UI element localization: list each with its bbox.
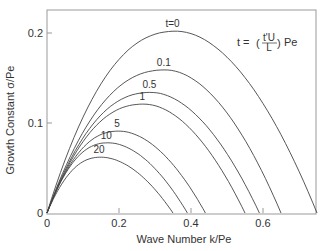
svg-text:0.1: 0.1 [28, 117, 43, 129]
svg-text:Pe: Pe [284, 36, 297, 48]
svg-text:0.6: 0.6 [255, 217, 270, 229]
svg-text:0.4: 0.4 [183, 217, 198, 229]
curve-label-20: 20 [93, 144, 105, 155]
curve-label-0.1: 0.1 [157, 57, 171, 68]
curve-label-t=0: t=0 [166, 18, 181, 29]
curve-label-10: 10 [101, 130, 113, 141]
curve-label-5: 5 [114, 118, 120, 129]
svg-text:t =: t = [237, 36, 250, 48]
svg-text:0.2: 0.2 [111, 217, 126, 229]
curve-labels: t=00.10.5151020 [93, 18, 180, 155]
y-axis-label: Growth Constant σ/Pe [4, 66, 16, 175]
svg-text:0: 0 [44, 217, 50, 229]
curves [47, 31, 317, 213]
curve-0.1 [47, 70, 281, 213]
svg-text:): ) [277, 37, 281, 49]
svg-text:0: 0 [37, 207, 43, 219]
axis-ticks: 00.20.40.600.10.2 [28, 27, 271, 229]
curve-label-1: 1 [139, 91, 145, 102]
t-definition-annotation: t = ( t'U L ) Pe [237, 32, 297, 53]
curve-label-0.5: 0.5 [142, 79, 156, 90]
x-axis-label: Wave Number k/Pe [137, 233, 232, 245]
growth-constant-chart: 00.20.40.600.10.2 t=00.10.5151020 Wave N… [0, 0, 327, 251]
svg-text:L: L [266, 42, 272, 53]
curve-t=0 [47, 31, 317, 213]
svg-text:(: ( [256, 37, 260, 49]
svg-text:0.2: 0.2 [28, 27, 43, 39]
plot-frame [47, 10, 316, 214]
